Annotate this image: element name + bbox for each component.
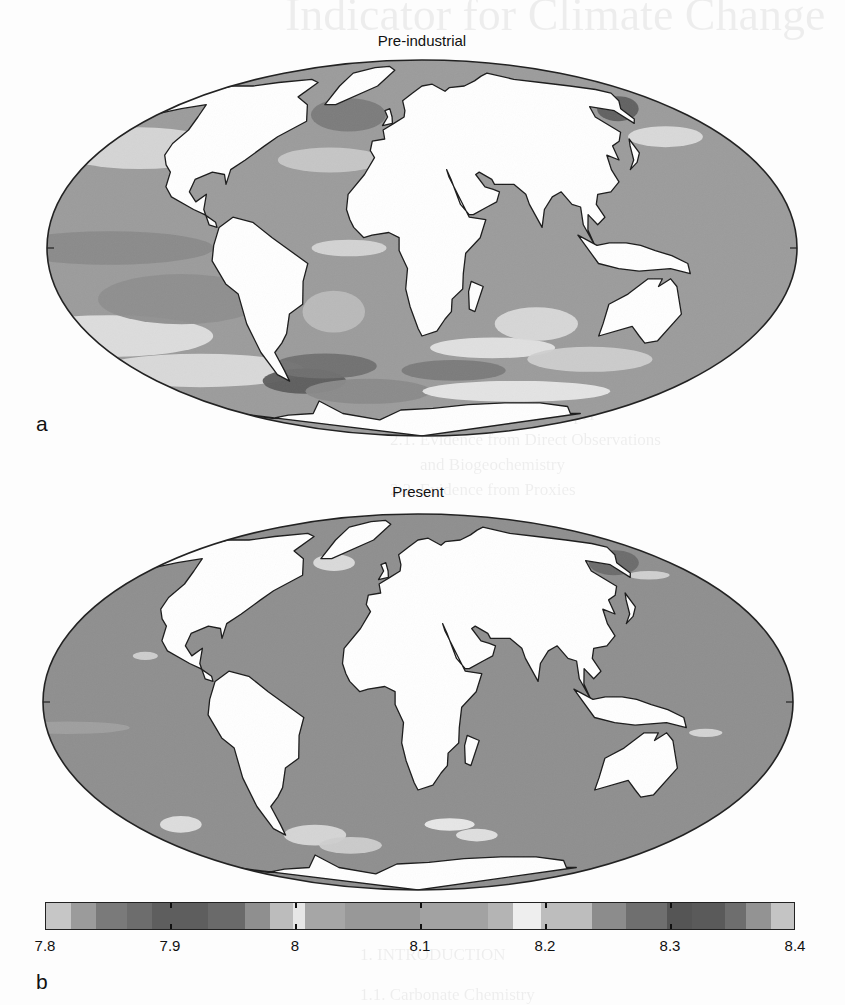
colorbar-segment (771, 903, 793, 929)
ph-colorbar (45, 902, 795, 930)
colorbar-segment (592, 903, 626, 929)
colorbar-segment (692, 903, 726, 929)
ocean-layer (5, 514, 793, 890)
colorbar-tick-mark (670, 903, 672, 908)
colorbar-tick-label: 7.8 (35, 937, 56, 954)
colorbar-segment (420, 903, 489, 929)
colorbar-tick-mark (670, 924, 672, 929)
colorbar-segment (270, 903, 292, 929)
colorbar-segment (513, 903, 540, 929)
scan-texture (43, 514, 793, 890)
colorbar-segment (245, 903, 270, 929)
colorbar-tick-mark (295, 924, 297, 929)
colorbar-segment (208, 903, 245, 929)
colorbar-segment (71, 903, 96, 929)
colorbar-segment (305, 903, 345, 929)
colorbar-tick-mark (295, 903, 297, 908)
present-ph-map (0, 0, 845, 900)
colorbar-tick-label: 8.3 (660, 937, 681, 954)
colorbar-tick-mark (545, 924, 547, 929)
colorbar-segment (96, 903, 127, 929)
colorbar-segment (541, 903, 592, 929)
colorbar-segment (488, 903, 513, 929)
colorbar-segment (46, 903, 71, 929)
colorbar-segment (345, 903, 420, 929)
colorbar-tick-mark (420, 924, 422, 929)
colorbar-segment (626, 903, 667, 929)
colorbar-tick-label: 8 (291, 937, 299, 954)
colorbar-tick-mark (170, 903, 172, 908)
colorbar-segment (152, 903, 208, 929)
colorbar-tick-label: 8.1 (410, 937, 431, 954)
colorbar-segment (746, 903, 771, 929)
bleed-through-line: 1.1. Carbonate Chemistry (360, 985, 535, 1005)
colorbar-segment (127, 903, 152, 929)
colorbar-tick-mark (170, 924, 172, 929)
colorbar-segment (725, 903, 746, 929)
panel-label-b: b (36, 970, 48, 994)
colorbar-tick-label: 7.9 (160, 937, 181, 954)
colorbar-tick-mark (545, 903, 547, 908)
colorbar-tick-label: 8.4 (785, 937, 806, 954)
colorbar-tick-mark (420, 903, 422, 908)
bleed-through-line: 1. INTRODUCTION (360, 945, 505, 965)
colorbar-tick-label: 8.2 (535, 937, 556, 954)
